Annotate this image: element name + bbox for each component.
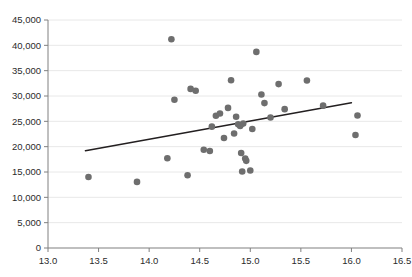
x-tick-label: 13.5 [89, 255, 108, 266]
data-point [221, 135, 228, 142]
y-tick-label: 0 [36, 242, 41, 253]
data-point [304, 77, 311, 84]
data-point [171, 97, 178, 104]
data-point [231, 130, 238, 137]
data-point [164, 155, 171, 162]
x-tick-label: 16.0 [342, 255, 361, 266]
data-point [168, 36, 175, 43]
data-point [249, 126, 256, 133]
x-tick-label: 16.5 [393, 255, 412, 266]
y-tick-label: 25,000 [12, 116, 41, 127]
y-tick-label: 10,000 [12, 192, 41, 203]
data-point [320, 102, 327, 109]
data-point [184, 172, 191, 179]
data-point [209, 123, 216, 130]
plot-area: 05,00010,00015,00020,00025,00030,00035,0… [0, 0, 412, 277]
x-tick-label: 14.5 [190, 255, 209, 266]
chart-background [0, 0, 412, 277]
x-tick-label: 13.0 [39, 255, 58, 266]
y-tick-label: 35,000 [12, 65, 41, 76]
x-tick-label: 15.5 [292, 255, 311, 266]
data-point [258, 91, 265, 98]
y-tick-label: 20,000 [12, 141, 41, 152]
scatter-chart: 05,00010,00015,00020,00025,00030,00035,0… [0, 0, 412, 277]
data-point [239, 168, 246, 175]
y-tick-label: 45,000 [12, 14, 41, 25]
y-tick-label: 30,000 [12, 90, 41, 101]
x-tick-label: 14.0 [140, 255, 159, 266]
data-point [352, 132, 359, 139]
data-point [238, 150, 245, 157]
data-point [267, 114, 274, 121]
data-point [217, 110, 224, 117]
data-point [228, 77, 235, 84]
data-point [134, 179, 141, 186]
data-point [275, 81, 282, 88]
data-point [85, 174, 92, 181]
data-point [200, 146, 207, 153]
data-point [253, 49, 260, 56]
data-point [240, 120, 247, 127]
data-point [261, 100, 268, 107]
data-point [207, 148, 214, 155]
data-point [281, 106, 288, 113]
data-point [247, 167, 254, 174]
y-tick-label: 15,000 [12, 166, 41, 177]
data-point [233, 113, 240, 120]
data-point [243, 158, 250, 165]
y-tick-label: 5,000 [17, 217, 41, 228]
data-point [192, 87, 199, 94]
data-point [354, 112, 361, 119]
data-point [225, 105, 232, 112]
x-tick-label: 15.0 [241, 255, 260, 266]
y-tick-label: 40,000 [12, 40, 41, 51]
